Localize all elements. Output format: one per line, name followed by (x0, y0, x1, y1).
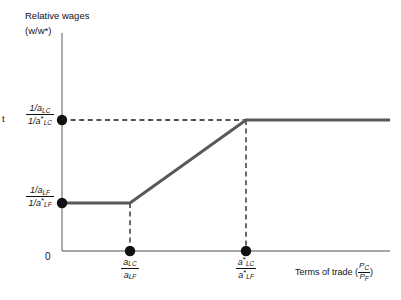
x-axis-title-text: Terms of trade (295, 267, 353, 277)
x-tick-low-numerator: aLC (121, 256, 138, 268)
y-tick-label-high: 1/aLC 1/a*LC (18, 104, 62, 126)
chart-canvas (0, 0, 401, 300)
x-tick-high-den-sub: LF (246, 273, 254, 280)
x-axis-title-num-sub: C (364, 264, 369, 271)
x-tick-high-fraction: a*LC a*LF (236, 256, 256, 280)
y-tick-low-den-base: 1/a (28, 198, 41, 208)
x-axis-title-den-sub: F (365, 274, 369, 281)
y-tick-high-num-base: 1/a (30, 103, 43, 113)
y-tick-low-num-base: 1/a (30, 185, 43, 195)
x-tick-high-denominator: a*LF (236, 268, 256, 281)
y-tick-low-numerator: 1/aLF (26, 186, 53, 196)
y-tick-low-fraction: 1/aLF 1/a*LF (26, 186, 53, 208)
y-tick-low-denominator: 1/a*LF (26, 196, 53, 209)
x-tick-label-high: a*LC a*LF (223, 256, 269, 280)
y-tick-high-numerator: 1/aLC (26, 104, 54, 114)
x-tick-label-low: aLC aLF (107, 256, 153, 280)
x-axis-title-fraction: PC PF (358, 262, 370, 282)
y-tick-high-den-base: 1/a (28, 116, 41, 126)
y-tick-high-den-sub: LC (44, 119, 52, 126)
x-axis-title-num: PC (358, 262, 370, 272)
relative-demand-curve (62, 120, 390, 203)
x-axis-title: Terms of trade ( PC PF ) (295, 262, 373, 282)
x-tick-low-denominator: aLF (121, 268, 138, 281)
y-axis-title: Relative wages (25, 11, 89, 21)
x-axis-title-den: PF (358, 272, 370, 283)
y-axis-units: (w/w*) (25, 26, 51, 36)
x-tick-high-num-sub: LC (246, 260, 254, 267)
x-tick-low-num-sub: LC (128, 260, 136, 267)
x-tick-low-den-sub: LF (129, 273, 137, 280)
margin-letter: t (2, 114, 5, 124)
marker-x-low-dot (125, 246, 135, 256)
y-tick-high-num-sub: LC (42, 107, 50, 114)
x-tick-low-fraction: aLC aLF (121, 256, 138, 280)
x-tick-high-numerator: a*LC (236, 256, 256, 268)
relative-wage-chart: t Relative wages (w/w*) 1/aLC 1/a*LC 1/a… (0, 0, 401, 300)
y-tick-label-low: 1/aLF 1/a*LF (18, 186, 62, 208)
y-tick-low-num-sub: LF (42, 189, 50, 196)
y-tick-high-fraction: 1/aLC 1/a*LC (26, 104, 54, 126)
origin-label: 0 (45, 252, 51, 263)
y-tick-high-denominator: 1/a*LC (26, 114, 54, 127)
y-tick-low-den-sub: LF (44, 201, 52, 208)
x-axis-title-paren-close: ) (370, 267, 373, 277)
